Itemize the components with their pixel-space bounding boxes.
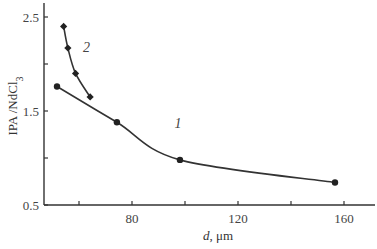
y-tick-label: 2.5 [23, 10, 39, 25]
diamond-marker [72, 70, 79, 77]
y-tick-labels: 0.51.52.5 [23, 10, 39, 213]
x-tick-label: 120 [228, 211, 248, 226]
x-axis-label: d, μm [203, 228, 233, 243]
y-axis-label: IPA /NdCl3 [5, 76, 25, 135]
curve-line [64, 26, 90, 97]
axes [44, 3, 375, 205]
diamond-marker [64, 44, 71, 51]
circle-marker [114, 119, 120, 125]
series-group: 12 [54, 23, 338, 186]
curve-label-1: 1 [174, 116, 181, 131]
curve-line [57, 87, 335, 183]
circle-marker [54, 83, 60, 89]
series-2: 2 [60, 23, 94, 101]
diamond-marker [60, 23, 67, 30]
x-tick-labels: 80120160 [126, 211, 354, 226]
chart: 80120160 0.51.52.5 12 d, μm IPA /NdCl3 [0, 0, 377, 249]
x-tick-label: 160 [334, 211, 354, 226]
x-tick-label: 80 [126, 211, 139, 226]
y-tick-label: 1.5 [23, 104, 39, 119]
circle-marker [177, 157, 183, 163]
curve-label-2: 2 [83, 40, 90, 55]
series-1: 1 [54, 83, 338, 185]
y-tick-label: 0.5 [23, 198, 39, 213]
circle-marker [332, 179, 338, 185]
